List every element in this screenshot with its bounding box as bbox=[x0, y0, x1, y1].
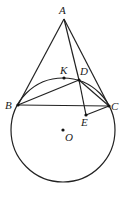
label-b: B bbox=[5, 99, 12, 111]
label-c: C bbox=[111, 100, 119, 112]
label-k: K bbox=[59, 64, 68, 76]
segment-ac bbox=[64, 19, 109, 106]
segment-ab bbox=[18, 19, 64, 105]
label-d: D bbox=[79, 65, 88, 77]
dot-b bbox=[16, 103, 19, 106]
label-e: E bbox=[80, 116, 88, 128]
geometry-diagram: A K D B C E O bbox=[0, 0, 126, 197]
point-dots bbox=[16, 76, 110, 131]
segment-ec bbox=[86, 106, 109, 115]
label-a: A bbox=[58, 4, 66, 16]
dot-k bbox=[62, 76, 65, 79]
segment-bc bbox=[18, 105, 109, 106]
dot-d bbox=[77, 78, 80, 81]
label-o: O bbox=[65, 131, 73, 143]
labels: A K D B C E O bbox=[5, 4, 119, 143]
